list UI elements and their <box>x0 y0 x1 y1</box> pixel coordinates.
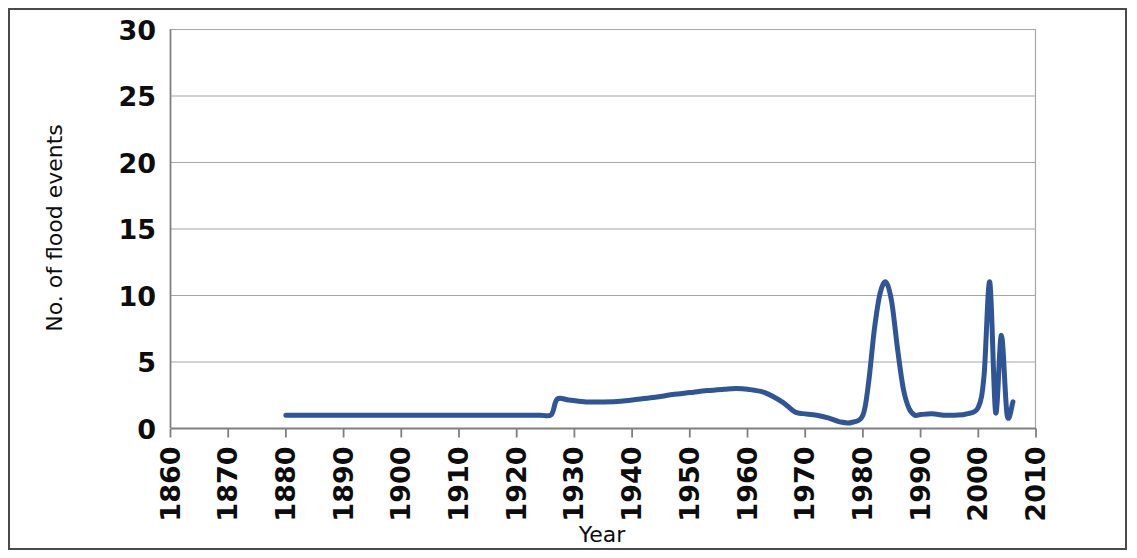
x-tick-label-1920: 1920 <box>501 447 532 522</box>
x-tick-label-1880: 1880 <box>270 447 301 522</box>
y-tick-label-0: 0 <box>137 414 156 445</box>
y-tick-label-20: 20 <box>118 148 156 179</box>
x-tick-label-1980: 1980 <box>847 447 878 522</box>
x-axis-tickmarks <box>171 429 1037 438</box>
y-axis-tick-labels: 051015202530 <box>118 15 156 445</box>
y-tick-label-30: 30 <box>118 15 156 46</box>
x-tick-label-2000: 2000 <box>962 447 993 522</box>
x-tick-label-1960: 1960 <box>732 447 763 522</box>
x-tick-label-1860: 1860 <box>155 447 186 522</box>
y-tick-label-10: 10 <box>118 281 156 312</box>
x-tick-label-1990: 1990 <box>905 447 936 522</box>
x-tick-label-1900: 1900 <box>385 447 416 522</box>
y-axis-title: No. of flood events <box>42 124 67 332</box>
x-tick-label-2010: 2010 <box>1020 447 1051 522</box>
x-tick-label-1950: 1950 <box>674 447 705 522</box>
x-tick-label-1930: 1930 <box>558 447 589 522</box>
y-tick-label-25: 25 <box>118 81 156 112</box>
x-tick-label-1970: 1970 <box>789 447 820 522</box>
x-tick-label-1890: 1890 <box>328 447 359 522</box>
x-axis-title: Year <box>578 522 627 547</box>
x-tick-label-1910: 1910 <box>443 447 474 522</box>
x-axis-tick-labels: 1860187018801890190019101920193019401950… <box>155 447 1052 522</box>
x-tick-label-1870: 1870 <box>212 447 243 522</box>
flood-events-line-chart: 051015202530 186018701880189019001910192… <box>0 0 1137 558</box>
y-tick-label-5: 5 <box>137 347 156 378</box>
flood-events-series-line <box>286 282 1013 423</box>
x-tick-label-1940: 1940 <box>616 447 647 522</box>
horizontal-gridlines <box>171 30 1037 363</box>
figure-container: 051015202530 186018701880189019001910192… <box>0 0 1137 558</box>
y-tick-label-15: 15 <box>118 214 156 245</box>
